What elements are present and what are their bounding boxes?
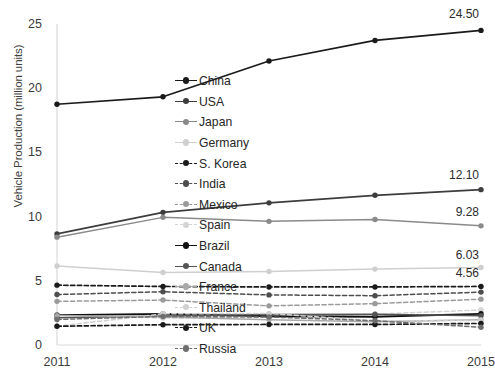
legend-item-label: UK (199, 321, 216, 335)
legend-marker-icon (175, 136, 197, 150)
series-marker (160, 297, 165, 302)
series-marker (160, 215, 165, 220)
legend-item-s-korea[interactable]: S. Korea (175, 153, 263, 174)
data-label-germany: 6.03 (456, 248, 479, 262)
chart-legend: ChinaUSAJapanGermanyS. KoreaIndiaMexicoS… (175, 71, 263, 359)
legend-marker-icon (175, 301, 197, 315)
series-marker (372, 38, 377, 43)
legend-item-thailand[interactable]: Thailand (175, 298, 263, 319)
series-marker (372, 193, 377, 198)
series-marker (266, 200, 271, 205)
data-label-china: 24.50 (449, 7, 479, 21)
legend-item-label: USA (199, 95, 224, 109)
series-marker (160, 270, 165, 275)
series-marker (266, 314, 271, 319)
legend-item-label: Brazil (199, 239, 229, 253)
legend-marker-icon (175, 342, 197, 356)
series-marker (266, 269, 271, 274)
legend-item-japan[interactable]: Japan (175, 112, 263, 133)
legend-item-france[interactable]: France (175, 277, 263, 298)
series-s-korea (54, 282, 483, 289)
legend-item-germany[interactable]: Germany (175, 133, 263, 154)
legend-item-usa[interactable]: USA (175, 92, 263, 113)
legend-item-label: Japan (199, 115, 232, 129)
legend-item-label: France (199, 280, 237, 294)
x-tick-label: 2015 (451, 355, 495, 369)
legend-item-label: S. Korea (199, 157, 246, 171)
legend-item-mexico[interactable]: Mexico (175, 195, 263, 216)
legend-marker-icon (175, 95, 197, 109)
series-marker (478, 28, 483, 33)
legend-marker-icon (175, 239, 197, 253)
legend-item-label: Spain (199, 218, 230, 232)
legend-marker-icon (175, 218, 197, 232)
legend-marker-icon (175, 115, 197, 129)
legend-item-label: China (199, 74, 231, 88)
series-marker (160, 94, 165, 99)
series-marker (54, 263, 59, 268)
legend-item-label: India (199, 177, 225, 191)
legend-marker-icon (175, 74, 197, 88)
series-marker (266, 292, 271, 297)
x-tick-label: 2011 (27, 355, 87, 369)
legend-item-india[interactable]: India (175, 174, 263, 195)
legend-marker-icon (175, 198, 197, 212)
series-marker (266, 322, 271, 327)
series-germany (54, 263, 483, 275)
series-japan (54, 215, 483, 240)
series-marker (160, 284, 165, 289)
series-marker (478, 187, 483, 192)
legend-item-label: Mexico (199, 198, 238, 212)
legend-item-china[interactable]: China (175, 71, 263, 92)
series-marker (266, 303, 271, 308)
series-marker (478, 284, 483, 289)
legend-item-spain[interactable]: Spain (175, 215, 263, 236)
legend-item-label: Thailand (199, 301, 246, 315)
legend-marker-icon (175, 321, 197, 335)
series-marker (54, 234, 59, 239)
series-marker (478, 289, 483, 294)
series-marker (54, 102, 59, 107)
legend-marker-icon (175, 280, 197, 294)
line-chart: Vehicle Production (million units) 25201… (0, 0, 495, 390)
series-marker (372, 301, 377, 306)
series-marker (54, 324, 59, 329)
series-mexico (54, 296, 483, 308)
legend-item-label: Russia (199, 342, 236, 356)
series-uk (54, 321, 483, 329)
series-china (54, 28, 483, 107)
series-marker (372, 284, 377, 289)
series-marker (372, 293, 377, 298)
legend-item-label: Germany (199, 136, 249, 150)
series-marker (478, 223, 483, 228)
series-marker (54, 299, 59, 304)
series-marker (478, 325, 483, 330)
series-india (54, 289, 483, 298)
series-marker (160, 210, 165, 215)
series-marker (54, 282, 59, 287)
series-marker (372, 312, 377, 317)
series-marker (160, 322, 165, 327)
legend-marker-icon (175, 260, 197, 274)
data-label-s-korea: 4.56 (456, 266, 479, 280)
legend-item-brazil[interactable]: Brazil (175, 236, 263, 257)
series-marker (160, 289, 165, 294)
legend-item-russia[interactable]: Russia (175, 339, 263, 360)
series-marker (478, 265, 483, 270)
series-marker (266, 284, 271, 289)
legend-item-uk[interactable]: UK (175, 318, 263, 339)
data-label-usa: 12.10 (449, 168, 479, 182)
series-marker (54, 317, 59, 322)
series-marker (372, 266, 377, 271)
series-line (57, 30, 481, 104)
legend-marker-icon (175, 157, 197, 171)
series-marker (266, 219, 271, 224)
legend-item-canada[interactable]: Canada (175, 256, 263, 277)
series-marker (372, 217, 377, 222)
series-marker (372, 318, 377, 323)
series-line (57, 190, 481, 234)
legend-marker-icon (175, 177, 197, 191)
series-marker (54, 292, 59, 297)
series-marker (160, 314, 165, 319)
series-usa (54, 187, 483, 237)
